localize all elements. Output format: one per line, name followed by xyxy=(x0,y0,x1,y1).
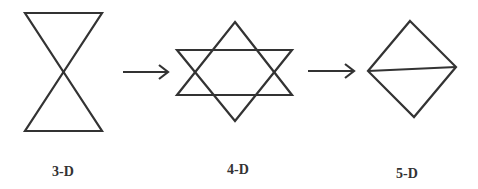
stage-label-5d: 5-D xyxy=(396,166,418,182)
hourglass-shape xyxy=(25,13,102,131)
stage-label-4d: 4-D xyxy=(227,162,249,178)
stage-label-3d: 3-D xyxy=(52,164,74,180)
diamond-shape xyxy=(368,21,456,117)
right-arrow-icon xyxy=(308,64,354,78)
dimension-progression-diagram: 3-D 4-D 5-D xyxy=(0,0,478,189)
hexagram-shape xyxy=(177,22,292,121)
diagram-svg xyxy=(0,0,478,189)
right-arrow-icon xyxy=(123,65,168,79)
